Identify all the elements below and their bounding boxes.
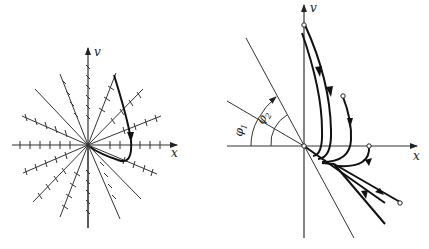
right-x-label: x [413,149,420,163]
start-points [302,23,402,205]
phi1-label: φ 1 [231,122,249,138]
arrow-icon [315,66,322,77]
left-x-label: x [171,146,178,160]
phi1-arc [251,119,258,146]
svg-text:1: 1 [239,123,249,130]
phi2-line [246,38,354,238]
left-v-label: v [94,45,101,59]
phi2-arc [271,115,287,146]
figure-canvas: x v [0,0,429,249]
trajectory-lower-right-a [334,164,400,202]
trajectory-1 [302,33,322,156]
right-v-label: v [310,1,317,15]
arrow-icon [347,118,353,128]
left-phase-plane [12,48,177,228]
trajectory-5 [322,163,334,164]
trajectory-3 [322,97,351,162]
trajectory-arrow-icon [127,132,134,142]
phi2-label: φ 2 [253,108,273,127]
